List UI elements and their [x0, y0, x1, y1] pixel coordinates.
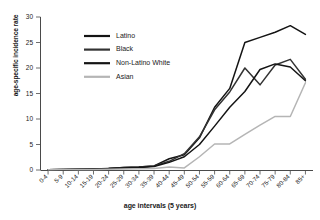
x-tick-label: 70-74	[245, 172, 262, 189]
x-axis-title: age intervals (5 years)	[0, 202, 320, 209]
x-tick-label: 65-69	[229, 172, 246, 189]
y-tick-label: 15	[26, 90, 34, 97]
legend-label-asian: Asian	[116, 73, 134, 80]
y-axis-tick-group: 051015202530	[26, 13, 41, 173]
x-tick-label: 60-64	[214, 172, 231, 189]
y-tick-label: 20	[26, 64, 34, 71]
x-tick-label: 0-4	[37, 172, 49, 184]
y-tick-label: 5	[29, 141, 33, 148]
x-tick-label: 30-34	[123, 172, 140, 189]
x-axis-tick-group: 0-45-910-1415-1920-2425-2930-3435-3940-4…	[37, 171, 306, 189]
x-tick-label: 25-29	[108, 172, 125, 189]
x-tick-label: 40-44	[154, 172, 171, 189]
x-tick-label: 45-49	[169, 172, 186, 189]
x-tick-label: 15-19	[78, 172, 95, 189]
x-tick-label: 20-24	[93, 172, 110, 189]
y-tick-label: 0	[29, 166, 33, 173]
legend-label-latino: Latino	[116, 32, 135, 39]
x-tick-label: 75-79	[260, 172, 277, 189]
x-tick-label: 85+	[294, 172, 307, 185]
y-tick-label: 30	[26, 13, 34, 20]
chart-legend: LatinoBlackNon-Latino WhiteAsian	[84, 32, 170, 80]
x-tick-label: 5-9	[53, 172, 65, 184]
legend-label-black: Black	[116, 45, 134, 52]
y-tick-label: 10	[26, 115, 34, 122]
x-tick-label: 10-14	[63, 172, 80, 189]
x-tick-label: 55-59	[199, 172, 216, 189]
x-tick-label: 35-39	[139, 172, 156, 189]
chart-container: age-specific incidence rate 051015202530…	[0, 0, 320, 220]
x-tick-label: 80-84	[275, 172, 292, 189]
line-chart-plot: 051015202530 0-45-910-1415-1920-2425-293…	[0, 0, 320, 220]
series-line-latino	[48, 26, 305, 170]
legend-label-non-latino-white: Non-Latino White	[116, 59, 170, 66]
y-tick-label: 25	[26, 39, 34, 46]
series-line-non-latino-white	[48, 64, 305, 170]
x-tick-label: 50-54	[184, 172, 201, 189]
data-series-group	[48, 26, 305, 170]
